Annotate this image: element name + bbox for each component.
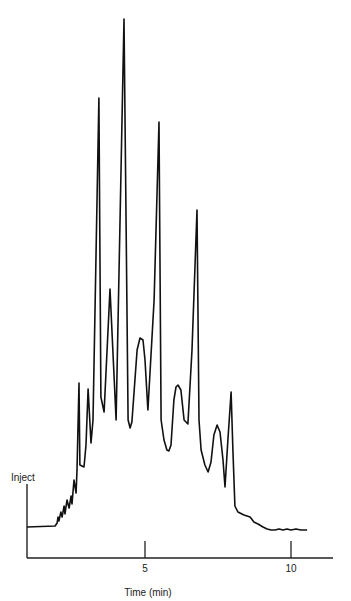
chromatogram-chart: Inject 5 10 Time (min): [0, 0, 351, 601]
x-axis-label: Time (min): [124, 587, 171, 598]
chromatogram-trace: [27, 19, 307, 530]
inject-label: Inject: [11, 472, 35, 483]
x-tick-label-10: 10: [285, 563, 297, 574]
x-tick-label-5: 5: [142, 563, 148, 574]
